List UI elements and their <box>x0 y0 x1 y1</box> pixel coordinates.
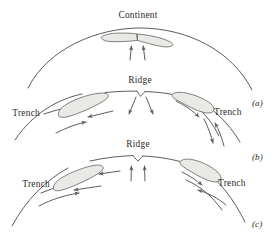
panel-b-ridge-notch <box>137 91 145 96</box>
panel-c-arc-center-left <box>90 156 133 161</box>
ridge-label-b: Ridge <box>128 75 152 85</box>
continent-label: Continent <box>118 10 157 20</box>
plate-motion-arrow-c-left-mid <box>74 186 101 190</box>
continent-block-left <box>101 33 138 42</box>
panel-c-ridge-notch <box>133 156 143 162</box>
panel-label-c: (c) <box>252 219 262 229</box>
panel-b-arc-center-left <box>105 91 137 92</box>
subducting-slab-right-c <box>180 159 221 182</box>
trench-left-label-b: Trench <box>12 108 40 118</box>
divergent-arrow-b-left <box>129 97 136 114</box>
trench-right-label-b: Trench <box>214 107 242 117</box>
trench-left-label-c: Trench <box>22 179 50 189</box>
upwelling-arrow-c-2 <box>145 166 146 181</box>
subduction-arrow-b-right-1 <box>204 119 213 143</box>
plate-motion-arrow-c-left-lower <box>39 193 79 206</box>
panel-label-a: (a) <box>252 98 263 108</box>
plate-motion-arrow-b-left <box>88 111 113 117</box>
panel-c: Ridge Trench Trench (b) (c) <box>12 139 263 229</box>
ridge-label-c: Ridge <box>126 139 150 149</box>
trench-right-label-c: Trench <box>218 178 246 188</box>
subduction-arrow-b-right-2 <box>215 123 224 146</box>
plate-motion-arrow-c-left-upper <box>99 171 120 174</box>
upwelling-arrow-c-1 <box>131 166 132 181</box>
continent-block-right <box>137 34 173 47</box>
continent-seam <box>137 34 138 40</box>
panel-label-b: (b) <box>252 152 263 162</box>
upwelling-arrow-a-2 <box>143 46 145 60</box>
plate-tectonics-diagram: Continent Ridge Trench Trench (a) <box>0 0 277 243</box>
panel-b: Ridge Trench Trench (a) <box>12 75 262 146</box>
panel-c-trench-right-hinge <box>186 180 222 210</box>
upwelling-arrow-a-1 <box>130 46 132 60</box>
panel-b-arc-center-right <box>145 92 172 95</box>
panel-c-arc-center-right <box>143 156 180 161</box>
divergent-arrow-b-right <box>146 97 153 114</box>
plate-motion-arrow-b-left-lower <box>56 122 86 133</box>
